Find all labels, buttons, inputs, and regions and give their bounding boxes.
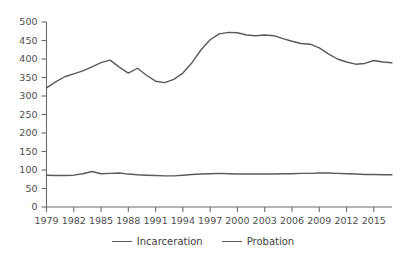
y-tick-label: 250 bbox=[19, 109, 37, 120]
y-tick-label: 500 bbox=[19, 16, 37, 27]
legend-line-swatch bbox=[112, 241, 132, 242]
x-tick-label: 2012 bbox=[334, 215, 358, 226]
y-tick-label: 400 bbox=[19, 53, 37, 64]
y-axis-ticks bbox=[42, 22, 47, 207]
x-tick-label: 1988 bbox=[116, 215, 140, 226]
y-tick-label: 450 bbox=[19, 35, 37, 46]
line-chart-plot: 050100150200250300350400450500 197919821… bbox=[0, 0, 406, 254]
x-tick-label: 1985 bbox=[89, 215, 113, 226]
y-tick-label: 350 bbox=[19, 72, 37, 83]
x-tick-label: 2000 bbox=[225, 215, 249, 226]
series-line-probation bbox=[47, 32, 393, 88]
series-line-incarceration bbox=[47, 171, 393, 175]
y-tick-label: 0 bbox=[31, 201, 37, 212]
x-tick-label: 1979 bbox=[34, 215, 58, 226]
y-tick-label: 100 bbox=[19, 164, 37, 175]
legend-label: Incarceration bbox=[137, 236, 203, 247]
chart-container: 050100150200250300350400450500 197919821… bbox=[0, 0, 406, 254]
data-series-group bbox=[47, 32, 393, 176]
x-axis-ticks bbox=[47, 207, 374, 212]
y-axis-tick-labels: 050100150200250300350400450500 bbox=[19, 16, 37, 212]
legend-label: Probation bbox=[247, 236, 295, 247]
x-tick-label: 2003 bbox=[253, 215, 277, 226]
legend-item-incarceration[interactable]: Incarceration bbox=[112, 236, 203, 247]
x-axis-tick-labels: 1979198219851988199119941997200020032006… bbox=[34, 215, 386, 226]
y-tick-label: 300 bbox=[19, 90, 37, 101]
chart-legend: IncarcerationProbation bbox=[0, 236, 406, 247]
x-tick-label: 1994 bbox=[171, 215, 195, 226]
x-tick-label: 1991 bbox=[144, 215, 168, 226]
y-tick-label: 150 bbox=[19, 146, 37, 157]
x-tick-label: 2006 bbox=[280, 215, 304, 226]
x-tick-label: 2015 bbox=[362, 215, 386, 226]
legend-line-swatch bbox=[222, 241, 242, 242]
y-tick-label: 200 bbox=[19, 127, 37, 138]
x-tick-label: 1997 bbox=[198, 215, 222, 226]
x-tick-label: 2009 bbox=[307, 215, 331, 226]
y-tick-label: 50 bbox=[25, 183, 37, 194]
legend-item-probation[interactable]: Probation bbox=[222, 236, 295, 247]
x-tick-label: 1982 bbox=[62, 215, 86, 226]
